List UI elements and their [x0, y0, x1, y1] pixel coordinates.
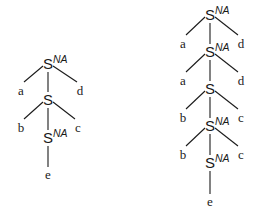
- left-tree-edge: [24, 66, 43, 82]
- nodes-layer: SNAaSdbSNAceSNAaSNAdaSdbSNAcbSNAce: [18, 4, 245, 209]
- node-label: S: [43, 55, 53, 72]
- right-tree-node-terminal: a: [180, 73, 186, 88]
- right-tree-node-terminal: e: [207, 194, 213, 209]
- right-tree-node-terminal: c: [238, 110, 244, 125]
- left-tree-edge: [53, 102, 75, 119]
- node-superscript: NA: [215, 41, 230, 53]
- left-tree-node-nonterminal: S: [43, 91, 53, 108]
- left-tree-node-nonterminal: SNA: [43, 53, 68, 72]
- right-tree-node-terminal: b: [180, 147, 187, 162]
- right-tree-node-terminal: d: [238, 36, 245, 51]
- left-tree-node-terminal: a: [18, 83, 24, 98]
- node-superscript: NA: [215, 152, 230, 164]
- node-label: S: [205, 117, 215, 134]
- right-tree-edge: [186, 91, 205, 109]
- right-tree-edge: [215, 17, 238, 35]
- node-label: c: [238, 110, 244, 125]
- node-label: d: [238, 36, 245, 51]
- left-tree-node-terminal: b: [18, 120, 25, 135]
- right-tree-edge: [186, 17, 205, 35]
- node-label: a: [180, 73, 186, 88]
- node-superscript: NA: [53, 127, 68, 139]
- right-tree-node-nonterminal: SNA: [205, 41, 230, 60]
- right-tree-node-nonterminal: SNA: [205, 4, 230, 23]
- left-tree-node-terminal: d: [77, 83, 84, 98]
- left-tree-node-terminal: e: [45, 167, 51, 182]
- node-label: a: [18, 83, 24, 98]
- node-label: d: [238, 73, 245, 88]
- node-label: e: [45, 167, 51, 182]
- right-tree-edge: [215, 91, 238, 109]
- node-label: c: [238, 147, 244, 162]
- node-label: S: [205, 6, 215, 23]
- node-superscript: NA: [53, 53, 68, 65]
- right-tree-node-terminal: c: [238, 147, 244, 162]
- left-tree-node-nonterminal: SNA: [43, 127, 68, 146]
- node-superscript: NA: [215, 4, 230, 16]
- node-label: a: [180, 36, 186, 51]
- node-label: S: [205, 80, 215, 97]
- left-tree-node-terminal: c: [75, 120, 81, 135]
- left-tree-edge: [24, 102, 43, 119]
- node-label: b: [180, 147, 187, 162]
- node-label: e: [207, 194, 213, 209]
- node-label: S: [205, 43, 215, 60]
- node-label: c: [75, 120, 81, 135]
- right-tree-edge: [215, 128, 238, 146]
- right-tree-node-terminal: a: [180, 36, 186, 51]
- node-label: b: [18, 120, 25, 135]
- left-tree-edge: [53, 66, 77, 82]
- right-tree-node-nonterminal: S: [205, 80, 215, 97]
- tree-diagram: SNAaSdbSNAceSNAaSNAdaSdbSNAcbSNAce: [0, 0, 263, 215]
- node-label: b: [180, 110, 187, 125]
- node-label: S: [205, 154, 215, 171]
- node-label: S: [43, 91, 53, 108]
- node-label: d: [77, 83, 84, 98]
- right-tree-edge: [186, 128, 205, 146]
- right-tree-node-terminal: d: [238, 73, 245, 88]
- node-label: S: [43, 129, 53, 146]
- right-tree-edge: [186, 54, 205, 72]
- node-superscript: NA: [215, 115, 230, 127]
- right-tree-edge: [215, 54, 238, 72]
- right-tree-node-nonterminal: SNA: [205, 115, 230, 134]
- right-tree-node-terminal: b: [180, 110, 187, 125]
- right-tree-node-nonterminal: SNA: [205, 152, 230, 171]
